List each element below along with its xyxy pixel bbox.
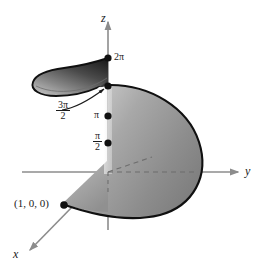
fraction-numerator: π xyxy=(93,131,102,141)
marker-2pi xyxy=(104,54,111,61)
fraction-3pi-over-2: 3π 2 xyxy=(56,100,70,121)
marker-3pi-over-2 xyxy=(104,82,111,89)
y-axis-label: y xyxy=(245,165,250,177)
z-axis-label: z xyxy=(101,12,106,24)
helicoid-surface xyxy=(32,58,202,219)
marker-pi xyxy=(104,112,111,119)
tick-label-3pi-over-2: 3π 2 xyxy=(56,100,70,121)
marker-pi-over-2 xyxy=(104,139,111,146)
surface-origin-wedge xyxy=(62,160,108,212)
tick-label-pi-over-2: π 2 xyxy=(93,131,102,152)
marker-point-100 xyxy=(60,201,68,209)
point-label-100: (1, 0, 0) xyxy=(14,198,49,209)
tick-label-pi: π xyxy=(94,110,99,120)
fraction-denominator: 2 xyxy=(93,142,102,152)
surface-axis-sliver xyxy=(104,86,112,174)
fraction-denominator: 2 xyxy=(56,111,70,121)
x-axis-label: x xyxy=(13,248,18,260)
fraction-pi-over-2: π 2 xyxy=(93,131,102,152)
helicoid-figure xyxy=(0,0,265,271)
fraction-numerator: 3π xyxy=(56,100,70,110)
tick-label-2pi: 2π xyxy=(114,52,124,62)
